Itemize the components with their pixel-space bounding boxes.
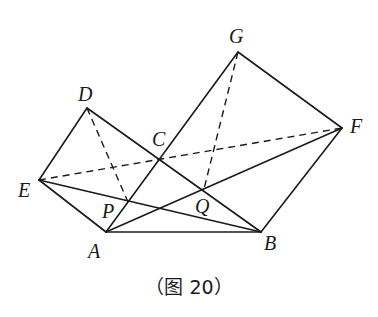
label-C: C (152, 128, 166, 150)
solid-lines (39, 52, 342, 232)
dashed-lines (39, 52, 342, 202)
label-P: P (101, 200, 114, 222)
label-E: E (17, 179, 30, 201)
label-Q: Q (195, 195, 210, 217)
segment-GA (106, 52, 238, 232)
segment-FG (238, 52, 342, 128)
label-A: A (86, 240, 101, 262)
label-G: G (229, 25, 244, 47)
label-F: F (349, 115, 363, 137)
segment-DE (39, 108, 87, 180)
geometry-figure: A B C D E F G P Q (0, 0, 378, 317)
figure-caption: （图 20） (0, 272, 378, 299)
segment-GQ-dashed (204, 52, 238, 189)
segment-EF-dashed (39, 128, 342, 180)
label-D: D (77, 83, 93, 105)
label-B: B (264, 232, 276, 254)
segment-BF (261, 128, 342, 232)
vertex-labels: A B C D E F G P Q (17, 25, 363, 262)
segment-AF (106, 128, 342, 232)
